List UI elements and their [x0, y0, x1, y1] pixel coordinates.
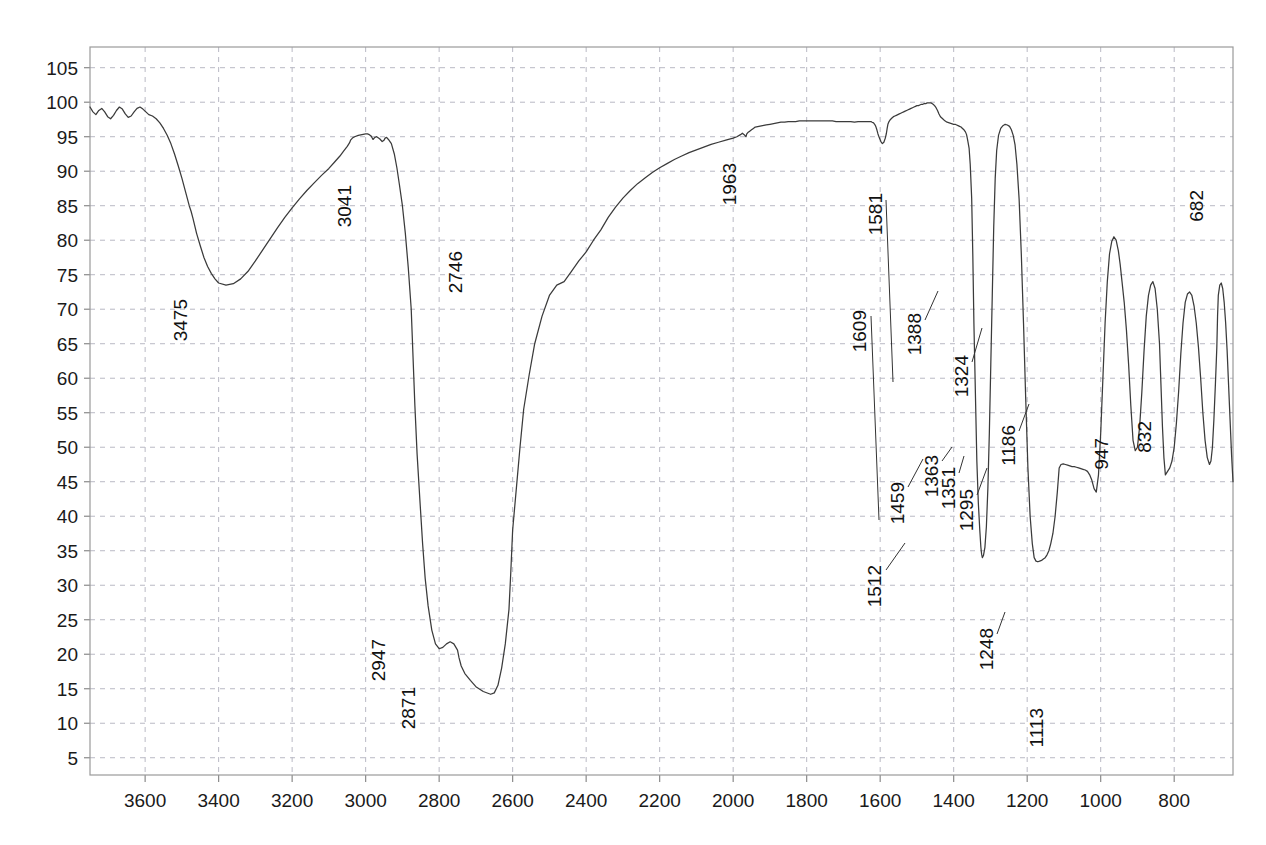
- peak-label-1186: 1186: [998, 425, 1019, 466]
- peak-label-3041: 3041: [334, 185, 355, 227]
- y-axis-tick-labels: 5101520253035404550556065707580859095100…: [46, 58, 78, 769]
- peak-leader-line: [886, 200, 893, 382]
- y-tick-label: 5: [67, 748, 78, 769]
- peak-leader-line: [977, 468, 987, 495]
- x-tick-label: 2800: [418, 790, 460, 811]
- x-tick-label: 1200: [1006, 790, 1048, 811]
- x-tick-label: 2400: [565, 790, 607, 811]
- trace-line: [90, 103, 1233, 694]
- x-tick-label: 3600: [124, 790, 166, 811]
- peak-label-1459: 1459: [887, 482, 908, 524]
- peak-leader-line: [871, 316, 879, 520]
- peak-label-682: 682: [1186, 190, 1207, 222]
- axis-ticks: [84, 68, 1174, 782]
- x-tick-label: 2600: [492, 790, 534, 811]
- x-axis-tick-labels: 3600340032003000280026002400220020001800…: [124, 790, 1190, 811]
- y-tick-label: 20: [57, 644, 78, 665]
- x-tick-label: 2200: [639, 790, 681, 811]
- y-tick-label: 30: [57, 575, 78, 596]
- x-tick-label: 3400: [197, 790, 239, 811]
- y-tick-label: 100: [46, 92, 78, 113]
- peak-label-832: 832: [1134, 421, 1155, 453]
- y-tick-label: 15: [57, 679, 78, 700]
- y-tick-label: 90: [57, 161, 78, 182]
- x-tick-label: 800: [1158, 790, 1190, 811]
- peak-label-1248: 1248: [976, 628, 997, 670]
- peak-label-2871: 2871: [398, 687, 419, 729]
- y-tick-label: 80: [57, 230, 78, 251]
- peak-label-1609: 1609: [849, 310, 870, 352]
- grid-lines: [90, 47, 1233, 775]
- y-tick-label: 65: [57, 334, 78, 355]
- plot-border: [90, 47, 1233, 775]
- ir-spectrum-chart: 3600340032003000280026002400220020001800…: [0, 0, 1266, 845]
- x-tick-label: 1600: [859, 790, 901, 811]
- y-tick-label: 35: [57, 541, 78, 562]
- peak-label-1581: 1581: [865, 193, 886, 235]
- y-tick-label: 85: [57, 196, 78, 217]
- x-tick-label: 1400: [933, 790, 975, 811]
- peak-label-1324: 1324: [951, 355, 972, 398]
- peak-label-947: 947: [1091, 438, 1112, 470]
- peak-leader-line: [886, 543, 905, 570]
- peak-leader-line: [959, 456, 964, 473]
- peak-label-2746: 2746: [445, 251, 466, 293]
- y-tick-label: 60: [57, 368, 78, 389]
- spectrum-plot: 3600340032003000280026002400220020001800…: [0, 0, 1266, 845]
- y-tick-label: 40: [57, 506, 78, 527]
- peak-label-3475: 3475: [170, 299, 191, 341]
- peak-label-2947: 2947: [368, 639, 389, 681]
- y-tick-label: 105: [46, 58, 78, 79]
- x-tick-label: 1800: [786, 790, 828, 811]
- peak-label-1295: 1295: [956, 489, 977, 531]
- peak-leader-lines: [871, 200, 1029, 634]
- x-tick-label: 3200: [271, 790, 313, 811]
- peak-leader-line: [925, 291, 938, 320]
- peak-annotations: 3475304129472871274619631609158115121459…: [170, 163, 1207, 747]
- peak-label-1113: 1113: [1026, 708, 1047, 747]
- peak-leader-line: [997, 612, 1005, 634]
- spectrum-trace: [90, 103, 1233, 694]
- y-tick-label: 70: [57, 299, 78, 320]
- plot-frame: [90, 47, 1233, 775]
- peak-leader-line: [942, 447, 952, 461]
- peak-label-1388: 1388: [904, 313, 925, 355]
- y-tick-label: 95: [57, 127, 78, 148]
- y-tick-label: 50: [57, 437, 78, 458]
- peak-label-1963: 1963: [719, 163, 740, 205]
- peak-label-1512: 1512: [864, 565, 885, 607]
- x-tick-label: 2000: [712, 790, 754, 811]
- y-tick-label: 10: [57, 713, 78, 734]
- x-tick-label: 3000: [345, 790, 387, 811]
- y-tick-label: 75: [57, 265, 78, 286]
- y-tick-label: 25: [57, 610, 78, 631]
- x-tick-label: 1000: [1080, 790, 1122, 811]
- y-tick-label: 55: [57, 403, 78, 424]
- y-tick-label: 45: [57, 472, 78, 493]
